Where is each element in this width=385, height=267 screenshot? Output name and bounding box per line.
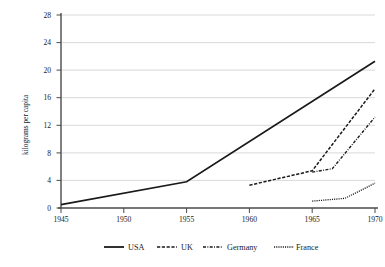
- legend-label-germany[interactable]: Germany: [227, 243, 258, 252]
- x-tick-label: 1965: [305, 215, 320, 224]
- y-tick-label: 12: [43, 121, 51, 130]
- x-tick-marks: [61, 208, 375, 213]
- series-group: [61, 61, 375, 204]
- y-tick-label: 0: [47, 204, 51, 213]
- x-tick-label: 1970: [367, 215, 382, 224]
- series-line-usa: [61, 61, 375, 204]
- line-chart: 28 24 20 16 12 8 4 0 kilograms per capit…: [0, 0, 385, 267]
- y-tick-label: 8: [47, 149, 51, 158]
- series-line-france: [312, 183, 375, 201]
- y-axis-title: kilograms per capita: [21, 94, 30, 155]
- legend-label-france[interactable]: France: [296, 243, 319, 252]
- x-tick-label: 1950: [116, 215, 131, 224]
- x-tick-label: 1945: [53, 215, 68, 224]
- y-tick-label: 4: [47, 176, 51, 185]
- chart-container: 28 24 20 16 12 8 4 0 kilograms per capit…: [0, 0, 385, 267]
- y-tick-labels: 28 24 20 16 12 8 4 0: [43, 11, 51, 213]
- legend-label-uk[interactable]: UK: [181, 243, 193, 252]
- chart-legend: USA UK Germany France: [104, 243, 319, 252]
- x-tick-labels: 1945 1950 1955 1960 1965 1970: [53, 215, 382, 224]
- x-tick-label: 1960: [242, 215, 257, 224]
- y-tick-label: 28: [43, 11, 51, 20]
- gridlines: [61, 15, 375, 180]
- series-line-uk: [249, 89, 375, 186]
- y-tick-label: 24: [43, 38, 51, 47]
- legend-label-usa[interactable]: USA: [128, 243, 144, 252]
- y-tick-label: 20: [43, 66, 51, 75]
- y-tick-label: 16: [43, 93, 51, 102]
- x-tick-label: 1955: [179, 215, 194, 224]
